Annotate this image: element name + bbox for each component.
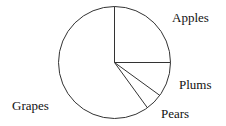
label-grapes: Grapes: [12, 98, 49, 113]
label-plums: Plums: [179, 77, 212, 92]
label-apples: Apples: [172, 10, 209, 25]
pie-chart: Apples Plums Pears Grapes: [0, 0, 226, 126]
label-pears: Pears: [161, 106, 189, 121]
